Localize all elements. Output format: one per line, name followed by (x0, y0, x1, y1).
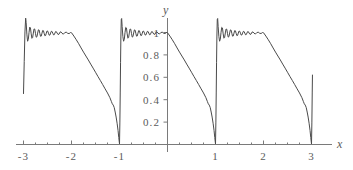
x-tick-labels: -3-2-1123 (18, 150, 315, 162)
y-tick-marks (164, 33, 168, 123)
y-axis-group: 0.20.40.60.81 (143, 18, 168, 152)
x-tick-label: -1 (114, 150, 125, 162)
y-axis-label: y (162, 3, 169, 17)
x-tick-label: 1 (212, 150, 219, 162)
x-tick-label: -2 (66, 150, 77, 162)
x-tick-label: -3 (18, 150, 29, 162)
x-tick-label: 2 (260, 150, 267, 162)
y-tick-label: 0.8 (143, 49, 160, 61)
y-tick-label: 0.2 (143, 116, 160, 128)
x-axis-label: x (336, 137, 343, 151)
x-tick-label: 3 (308, 150, 315, 162)
x-axis-group: -3-2-1123 (16, 141, 332, 163)
y-tick-labels: 0.20.40.60.81 (143, 27, 160, 129)
plot-canvas: -3-2-1123 0.20.40.60.81 x y (0, 0, 353, 170)
fourier-series-gibbs-plot: -3-2-1123 0.20.40.60.81 x y (0, 0, 353, 170)
y-tick-label: 0.4 (143, 94, 160, 106)
y-tick-label: 0.6 (143, 71, 160, 83)
